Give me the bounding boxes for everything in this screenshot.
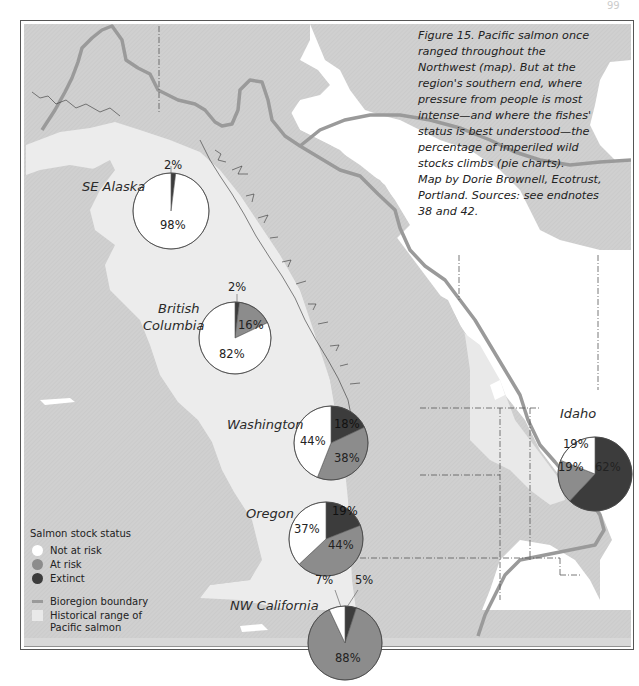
legend-label: Bioregion boundary [50,596,148,607]
legend-swatch-extinct [32,573,43,584]
pct-ca-extinct: 5% [355,573,373,587]
legend-label: Extinct [50,573,85,584]
caption-line: intense—and where the fishes' [418,108,623,124]
legend-label: Not at risk [50,545,102,556]
pct-id-not-at-risk: 19% [563,437,589,451]
legend-swatch-not-at-risk [32,545,43,556]
caption-line: ranged throughout the [418,44,623,60]
pct-ca-not-at-risk: 7% [315,573,333,587]
pct-bc-at-risk: 16% [238,318,264,332]
caption-line: Northwest (map). But at the [418,60,623,76]
pct-or-extinct: 19% [332,504,358,518]
page-number: 99 [607,0,620,11]
legend-title: Salmon stock status [30,528,190,539]
legend-item-boundary: Bioregion boundary [30,594,190,608]
label-idaho: Idaho [560,406,596,421]
label-oregon: Oregon [246,506,294,521]
label-se-alaska: SE Alaska [82,179,145,194]
pct-id-at-risk: 19% [558,460,584,474]
caption-line: 38 and 42. [418,204,623,220]
caption-line: Portland. Sources: see endnotes [418,188,623,204]
pct-or-at-risk: 44% [328,538,354,552]
pct-or-not-at-risk: 37% [294,522,320,536]
legend-swatch-boundary [32,600,43,603]
legend-label: Historical range of [50,610,142,621]
pie-nw-california [308,606,382,680]
caption-line: Map by Dorie Brownell, Ecotrust, [418,172,623,188]
label-nw-california: NW California [230,598,319,613]
label-british-columbia-2: Columbia [143,318,204,333]
pct-se-alaska-not-at-risk: 98% [160,218,186,232]
legend-item-extinct: Extinct [30,571,190,585]
pct-id-extinct: 62% [595,460,621,474]
legend-swatch-at-risk [32,559,43,570]
legend-swatch-range [32,610,43,621]
legend-item-not-at-risk: Not at risk [30,543,190,557]
pct-wa-at-risk: 38% [334,451,360,465]
pct-bc-extinct: 2% [228,280,246,294]
caption-line: region's southern end, where [418,76,623,92]
legend-label: Pacific salmon [30,622,190,636]
caption-line: pressure from people is most [418,92,623,108]
pct-bc-not-at-risk: 82% [219,347,245,361]
map-figure: 99 Figure 15. Pacific salmon once ranged… [0,0,639,686]
legend: Salmon stock status Not at risk At risk … [30,528,190,636]
label-british-columbia-1: British [158,301,200,316]
pct-wa-extinct: 18% [334,417,360,431]
legend-label: At risk [50,559,82,570]
caption-line: stocks climbs (pie charts). [418,156,623,172]
label-washington: Washington [227,417,304,432]
pct-wa-not-at-risk: 44% [300,434,326,448]
legend-item-at-risk: At risk [30,557,190,571]
caption-line: Figure 15. Pacific salmon once [418,28,623,44]
caption-line: status is best understood—the [418,124,623,140]
pct-ca-at-risk: 88% [335,651,361,665]
pie-british-columbia [199,302,271,374]
figure-caption: Figure 15. Pacific salmon once ranged th… [418,28,623,220]
pct-se-alaska-extinct: 2% [164,158,182,172]
legend-item-range: Historical range of [30,608,190,622]
caption-line: percentage of imperiled wild [418,140,623,156]
